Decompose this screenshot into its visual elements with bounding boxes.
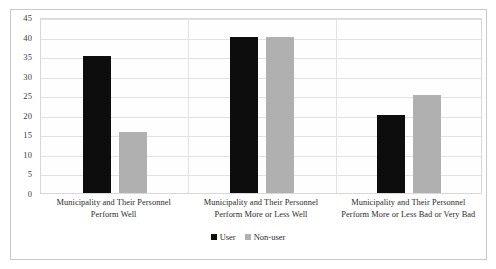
bar-non-user [266, 37, 294, 193]
bar-non-user [119, 132, 147, 193]
x-axis-category-label-line: Perform Well [40, 209, 187, 221]
y-axis-tick-label: 40 [23, 33, 32, 43]
legend-label: User [220, 232, 236, 242]
y-axis-tick-label: 5 [28, 169, 32, 179]
y-axis-tick-label: 45 [23, 13, 32, 23]
legend-swatch-icon [211, 234, 217, 240]
x-axis-category-label-line: Municipality and Their Personnel [335, 197, 482, 209]
y-axis-tick-label: 35 [23, 52, 32, 62]
bar-user [83, 56, 111, 193]
bar-chart-figure: 051015202530354045 Municipality and Thei… [0, 0, 496, 269]
x-axis-category-label-line: Municipality and Their Personnel [187, 197, 334, 209]
chart-legend: UserNon-user [0, 232, 496, 242]
y-axis-tick-label: 0 [28, 189, 32, 199]
gridline [41, 39, 481, 40]
legend-item-non-user[interactable]: Non-user [245, 232, 286, 242]
y-axis-tick-label: 15 [23, 130, 32, 140]
x-axis-category-label: Municipality and Their PersonnelPerform … [187, 197, 334, 220]
bar-non-user [413, 95, 441, 193]
bar-user [377, 115, 405, 193]
plot-area [40, 18, 482, 194]
category-separator [188, 19, 189, 193]
plot-region [40, 18, 482, 194]
y-axis-tick-label: 25 [23, 91, 32, 101]
legend-item-user[interactable]: User [211, 232, 236, 242]
y-axis-tick-label: 10 [23, 150, 32, 160]
category-separator [336, 19, 337, 193]
x-axis-category-label-line: Perform More or Less Well [187, 209, 334, 221]
x-axis-category-label: Municipality and Their PersonnelPerform … [40, 197, 187, 220]
x-axis-category-label: Municipality and Their PersonnelPerform … [335, 197, 482, 220]
y-axis: 051015202530354045 [0, 18, 36, 194]
bar-user [230, 37, 258, 193]
gridline [41, 19, 481, 20]
x-axis-category-label-line: Perform More or Less Bad or Very Bad [335, 209, 482, 221]
x-axis: Municipality and Their PersonnelPerform … [40, 197, 482, 229]
y-axis-tick-label: 20 [23, 111, 32, 121]
x-axis-category-label-line: Municipality and Their Personnel [40, 197, 187, 209]
y-axis-tick-label: 30 [23, 72, 32, 82]
legend-swatch-icon [245, 234, 251, 240]
legend-label: Non-user [254, 232, 286, 242]
